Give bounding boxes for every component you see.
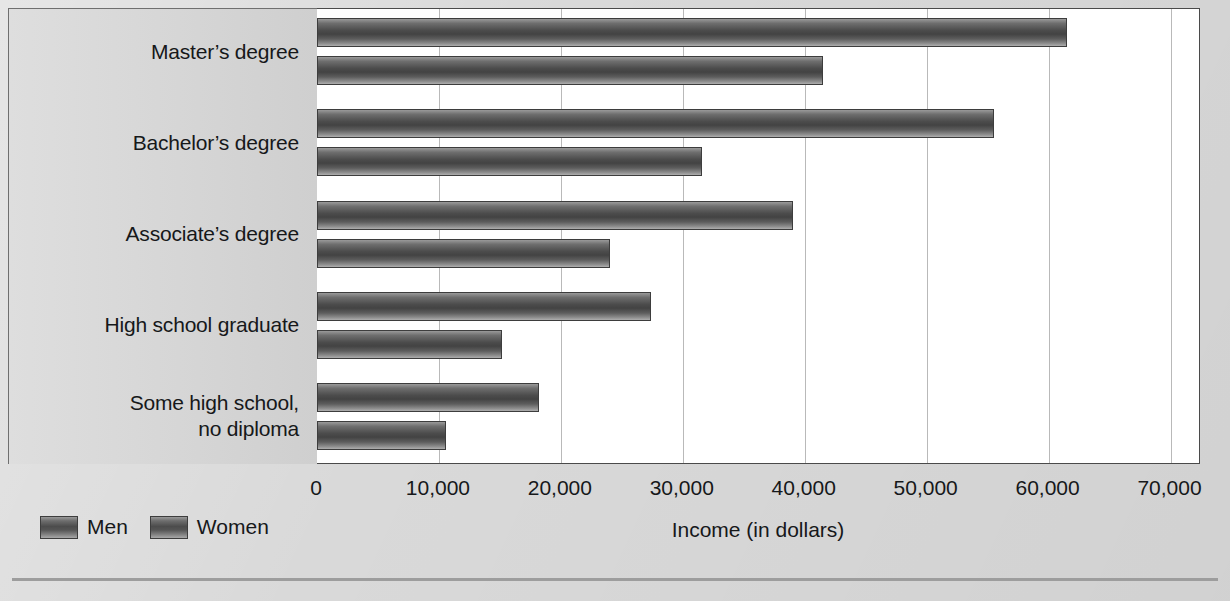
category-label-panel: Master’s degreeBachelor’s degreeAssociat… [8, 8, 317, 464]
plot-area [316, 8, 1200, 464]
bar-fill [318, 293, 650, 320]
bar-men-3 [317, 292, 651, 321]
bar-fill [318, 148, 701, 175]
x-tick-label-0: 0 [310, 476, 322, 500]
legend-item-men: Men [40, 515, 128, 539]
category-label-2: Associate’s degree [126, 221, 299, 247]
bar-women-0 [317, 56, 823, 85]
chart-figure: Master’s degreeBachelor’s degreeAssociat… [0, 0, 1230, 601]
gridline [1171, 9, 1172, 463]
legend-label-women: Women [197, 515, 269, 539]
bar-men-0 [317, 18, 1067, 47]
category-label-1: Bachelor’s degree [133, 130, 299, 156]
x-tick-label-4: 40,000 [772, 476, 836, 500]
category-label-0: Master’s degree [151, 39, 299, 65]
bar-women-2 [317, 239, 610, 268]
legend-item-women: Women [150, 515, 269, 539]
gridline [927, 9, 928, 463]
x-tick-label-1: 10,000 [406, 476, 470, 500]
bar-fill [318, 110, 993, 137]
bar-women-4 [317, 421, 446, 450]
bar-fill [318, 19, 1066, 46]
bar-fill [318, 240, 609, 267]
bar-fill [318, 202, 792, 229]
bottom-divider [12, 578, 1218, 581]
legend-label-men: Men [87, 515, 128, 539]
x-tick-label-2: 20,000 [528, 476, 592, 500]
bar-fill [318, 331, 501, 358]
bar-women-3 [317, 330, 502, 359]
bar-women-1 [317, 147, 702, 176]
legend-swatch-men [40, 516, 78, 539]
bar-fill [318, 57, 822, 84]
legend-swatch-women [150, 516, 188, 539]
bar-fill [318, 384, 538, 411]
category-label-3: High school graduate [105, 312, 299, 338]
bar-men-2 [317, 201, 793, 230]
x-axis-title: Income (in dollars) [316, 518, 1200, 542]
category-label-4: Some high school, no diploma [130, 390, 299, 442]
bar-men-4 [317, 383, 539, 412]
x-tick-label-3: 30,000 [650, 476, 714, 500]
chart-legend: Men Women [40, 515, 281, 539]
x-tick-label-5: 50,000 [894, 476, 958, 500]
bar-fill [318, 422, 445, 449]
x-tick-label-7: 70,000 [1137, 476, 1201, 500]
gridline [1049, 9, 1050, 463]
bar-men-1 [317, 109, 994, 138]
x-tick-label-6: 60,000 [1015, 476, 1079, 500]
